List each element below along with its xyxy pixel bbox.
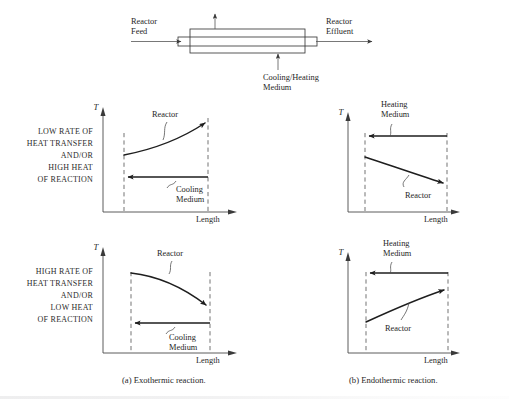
chart3-reactor-label: Reactor [157,249,183,258]
row-label-top-line3: AND/OR [61,151,94,160]
chart3-x-axis-arrowhead [228,351,237,356]
scan-artifact-band [0,396,509,399]
row-label-top-line5: OF REACTION [38,175,93,184]
chart2-reactor-curve [365,157,443,183]
reactor-effluent-label-line2: Effluent [326,27,354,36]
chart4-heating-leader [390,262,392,273]
chart3-reactor-curve [131,273,206,305]
chart4-heating-label-line2: Medium [383,249,412,258]
chart2-x-axis-label: Length [424,215,449,224]
chart4-reactor-label: Reactor [385,324,411,333]
chart1-cooling-leader [167,181,176,188]
chart1-cooling-label-line1: Cooling [176,185,204,194]
reactor-schematic: Reactor Feed Reactor Effluent Cooling/He… [131,14,372,92]
caption-endothermic: (b) Endothermic reaction. [349,375,438,385]
chart1-reactor-curve [124,123,205,155]
chart3-cooling-label-line1: Cooling [169,333,197,342]
chart1-x-axis-arrowhead [228,210,237,215]
chart2-heating-label-line2: Medium [381,110,410,119]
chart4-x-axis-arrowhead [451,351,460,356]
chart4-x-axis-label: Length [424,356,449,365]
cooling-heating-medium-label-line2: Medium [263,83,292,92]
row-label-bottom-line1: HIGH RATE OF [36,267,94,276]
chart1-x-axis-label: Length [196,215,221,224]
reactor-feed-label-line2: Feed [131,27,148,36]
row-label-low-rate: LOW RATE OF HEAT TRANSFER AND/OR HIGH HE… [27,127,94,184]
chart4-y-axis-arrowhead [346,252,351,261]
chart2-x-axis-arrowhead [451,210,460,215]
chart1-reactor-label: Reactor [152,110,178,119]
chart2-heating-leader [390,124,392,136]
chart4-heating-label-line1: Heating [383,239,410,248]
chart3-y-axis-arrowhead [101,247,106,256]
chart2-heating-label-line1: Heating [381,100,408,109]
chart1-y-axis-label: T [94,102,100,112]
chart2-y-axis-arrowhead [346,112,351,121]
row-label-bottom-line3: AND/OR [61,291,94,300]
chart4-reactor-curve [366,290,444,322]
chart-endothermic-high-rate: T Length Heating Medium Reactor [339,239,460,365]
reactor-shell [190,29,305,53]
reactor-feed-label-line1: Reactor [131,17,157,26]
row-label-bottom-line4: LOW HEAT [50,303,93,312]
row-label-top-line1: LOW RATE OF [38,127,93,136]
chart-endothermic-low-rate: T Length Heating Medium Reactor [339,100,460,224]
row-label-top-line2: HEAT TRANSFER [27,139,94,148]
chart1-cooling-label-line2: Medium [176,195,205,204]
reactor-tube [178,37,317,46]
chart3-cooling-label-line2: Medium [169,343,198,352]
reactor-effluent-label-line1: Reactor [326,17,352,26]
chart4-y-axis-label: T [339,247,345,257]
row-label-high-rate: HIGH RATE OF HEAT TRANSFER AND/OR LOW HE… [27,267,94,324]
chart3-y-axis-label: T [94,242,100,252]
chart3-reactor-leader [169,261,172,274]
chart2-y-axis-label: T [339,107,345,117]
chart2-reactor-leader [403,175,409,187]
cooling-heating-medium-label-line1: Cooling/Heating [263,73,320,82]
row-label-top-line4: HIGH HEAT [48,163,93,172]
caption-exothermic: (a) Exothermic reaction. [122,375,206,385]
row-label-bottom-line5: OF REACTION [38,315,93,324]
figure-page: Reactor Feed Reactor Effluent Cooling/He… [0,0,509,406]
chart2-reactor-label: Reactor [405,191,431,200]
chart3-x-axis-label: Length [196,356,221,365]
chart1-reactor-leader [163,122,167,140]
figure-canvas: Reactor Feed Reactor Effluent Cooling/He… [0,0,509,406]
chart1-y-axis-arrowhead [101,107,106,116]
chart-exothermic-low-rate: T Length Reactor Cooling Medium [94,102,237,224]
row-label-bottom-line2: HEAT TRANSFER [27,279,94,288]
chart-exothermic-high-rate: T Length Reactor Cooling Medium [94,242,237,365]
